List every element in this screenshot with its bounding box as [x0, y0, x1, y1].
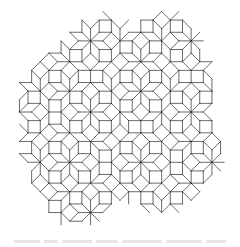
tile-edge	[82, 124, 91, 133]
caption-word	[96, 240, 118, 243]
tile-edge	[40, 124, 49, 133]
tile-edge	[70, 133, 79, 142]
tile-edge	[141, 112, 150, 121]
tile-edge	[203, 83, 212, 92]
tile-edge	[40, 70, 49, 79]
tile-edge	[82, 83, 91, 92]
tile-edge	[49, 183, 58, 192]
tile-edge	[49, 91, 58, 100]
tile-edge	[120, 20, 129, 29]
tile-edge	[32, 112, 41, 121]
tile-edge	[91, 83, 100, 92]
tile-edge	[141, 83, 150, 92]
tile-edge	[70, 83, 79, 92]
tile-edge	[120, 162, 129, 171]
tile-edge	[70, 41, 79, 50]
tile-edge	[19, 124, 28, 133]
tile-edge	[141, 91, 150, 100]
tile-edge	[120, 124, 129, 133]
tile-edge	[61, 103, 70, 112]
tile-edge	[111, 70, 120, 79]
tile-edge	[82, 192, 91, 201]
tile-edge	[91, 162, 100, 171]
tile-edge	[40, 192, 49, 201]
tile-edge	[111, 112, 120, 121]
tile-edge	[103, 11, 112, 20]
tile-edge	[132, 83, 141, 92]
tile-edge	[132, 112, 141, 121]
tile-edge	[111, 53, 120, 62]
tile-edge	[61, 183, 70, 192]
tile-edge	[203, 162, 212, 171]
tile-edge	[82, 20, 91, 29]
tile-edge	[40, 162, 49, 171]
tile-edge	[32, 141, 41, 150]
tile-edge	[19, 112, 28, 121]
tile-edge	[82, 204, 91, 213]
tile-edge	[111, 103, 120, 112]
tile-edge	[132, 174, 141, 183]
tile-edge	[212, 154, 221, 163]
tile-edge	[70, 112, 79, 121]
tile-edge	[82, 103, 91, 112]
tile-edge	[182, 154, 191, 163]
tile-edge	[40, 83, 49, 92]
tile-edge	[91, 91, 100, 100]
tile-edge	[153, 32, 162, 41]
tile-edge	[162, 204, 171, 213]
tile-edge	[32, 103, 41, 112]
tile-edge	[153, 192, 162, 201]
tile-edge	[162, 141, 171, 150]
tiling-figure	[0, 0, 240, 230]
tile-edge	[153, 162, 162, 171]
tile-edge	[141, 103, 150, 112]
tile-edge	[141, 133, 150, 142]
tile-edge	[111, 124, 120, 133]
tile-edge	[170, 32, 179, 41]
tile-edge	[120, 32, 129, 41]
tile-edge	[162, 11, 171, 20]
caption-word	[44, 240, 58, 243]
tile-edge	[120, 183, 129, 192]
tile-edge	[191, 192, 200, 201]
tile-edge	[61, 112, 70, 121]
tile-edge	[91, 103, 100, 112]
tile-edge	[162, 41, 171, 50]
tile-edge	[49, 192, 58, 201]
tile-edge	[203, 112, 212, 121]
tile-edge	[132, 53, 141, 62]
tile-edge	[182, 103, 191, 112]
tile-edge	[70, 162, 79, 171]
tile-edge	[203, 154, 212, 163]
tile-edge	[82, 91, 91, 100]
tile-edge	[132, 32, 141, 41]
tile-edge	[162, 162, 171, 171]
tile-edge	[103, 112, 112, 121]
tile-edge	[191, 112, 200, 121]
tile-edge	[162, 183, 171, 192]
tile-edge	[191, 83, 200, 92]
tile-edge	[70, 62, 79, 71]
tile-edge	[120, 133, 129, 142]
octagonal-tiling	[19, 11, 224, 224]
tile-edge	[141, 53, 150, 62]
tile-edge	[61, 41, 70, 50]
tile-edge	[103, 183, 112, 192]
tile-edge	[182, 20, 191, 29]
tile-edge	[191, 91, 200, 100]
tile-edge	[19, 83, 28, 92]
tile-edge	[91, 141, 100, 150]
tile-edge	[111, 141, 120, 150]
tile-edge	[111, 174, 120, 183]
tile-edge	[120, 91, 129, 100]
tile-edge	[103, 204, 112, 213]
tile-edge	[191, 41, 200, 50]
tile-edge	[191, 53, 200, 62]
tile-edge	[182, 112, 191, 121]
tile-edge	[61, 70, 70, 79]
tile-edge	[141, 183, 150, 192]
tile-edge	[162, 32, 171, 41]
tile-edge	[141, 154, 150, 163]
tile-edge	[120, 154, 129, 163]
tile-edge	[111, 41, 120, 50]
